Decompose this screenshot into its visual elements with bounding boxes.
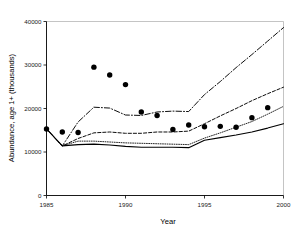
x-tick-label: 1995 <box>198 201 212 208</box>
x-tick-label: 1985 <box>40 201 54 208</box>
abundance-line-chart: 0100002000030000400001985199019952000 Ye… <box>0 0 299 232</box>
y-tick-label: 40000 <box>24 18 42 25</box>
x-tick-label: 2000 <box>277 201 291 208</box>
axis-tick-labels: 0100002000030000400001985199019952000 <box>24 18 291 208</box>
y-tick-label: 20000 <box>24 105 42 112</box>
y-tick-label: 10000 <box>24 148 42 155</box>
scatter-point <box>107 72 112 77</box>
axis-ticks <box>44 22 284 199</box>
chart-container: 0100002000030000400001985199019952000 Ye… <box>0 0 299 232</box>
scatter-point <box>218 124 223 129</box>
plot-border <box>47 22 284 196</box>
scatter-point <box>202 124 207 129</box>
series-lines <box>47 28 284 148</box>
series-line-dashed-middle <box>47 87 284 146</box>
plot-frame <box>47 22 284 196</box>
y-tick-label: 0 <box>38 192 42 199</box>
x-axis-title: Year <box>160 217 176 226</box>
scatter-point <box>249 115 254 120</box>
y-tick-label: 30000 <box>24 61 42 68</box>
scatter-point <box>139 109 144 114</box>
scatter-point <box>265 105 270 110</box>
scatter-point <box>154 113 159 118</box>
scatter-point <box>233 125 238 130</box>
scatter-point <box>75 130 80 135</box>
scatter-point <box>91 64 96 69</box>
scatter-point <box>186 122 191 127</box>
y-axis-title: Abundance, age 1+ (thousands) <box>7 53 16 162</box>
series-line-dash-dot-upper <box>47 28 284 146</box>
x-tick-label: 1990 <box>119 201 133 208</box>
scatter-point <box>60 129 65 134</box>
scatter-point <box>44 126 49 131</box>
series-line-dotted-lower <box>47 106 284 146</box>
scatter-point <box>170 127 175 132</box>
scatter-points <box>44 64 271 135</box>
scatter-point <box>123 82 128 87</box>
